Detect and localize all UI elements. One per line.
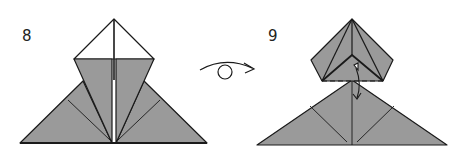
turn-over-arrow-icon	[200, 62, 254, 79]
step-9-figure	[257, 19, 447, 145]
origami-diagram	[0, 0, 462, 156]
step-8-figure	[20, 19, 207, 143]
